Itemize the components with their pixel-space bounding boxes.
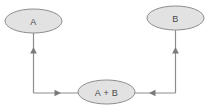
arrowhead-left-to-ab	[149, 90, 156, 96]
node-ab[interactable]: A + B	[78, 80, 135, 104]
node-b[interactable]: B	[147, 6, 204, 30]
arrowhead-up-to-a	[30, 47, 37, 54]
diagram-canvas: A B A + B	[0, 0, 210, 108]
node-a-label: A	[30, 17, 36, 27]
node-ab-label: A + B	[95, 88, 118, 98]
reaction-diagram: A B A + B	[0, 0, 210, 108]
arrowhead-right-to-ab	[55, 90, 62, 96]
arrowhead-up-to-b	[172, 47, 179, 54]
node-b-label: B	[172, 14, 178, 24]
node-a[interactable]: A	[5, 9, 62, 33]
